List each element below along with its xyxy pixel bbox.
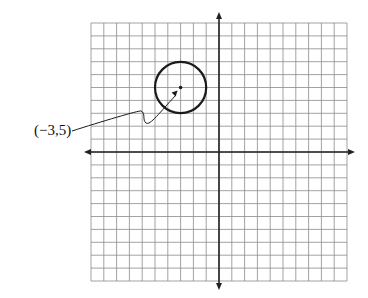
arrow-down-icon [216,283,222,290]
center-point [179,86,183,90]
arrowhead-icon [172,91,178,97]
arrow-right-icon [348,149,355,155]
coordinate-plane [0,0,368,298]
arrow-left-icon [84,149,91,155]
center-point-label: (−3,5) [34,122,71,139]
arrow-up-icon [216,12,222,19]
